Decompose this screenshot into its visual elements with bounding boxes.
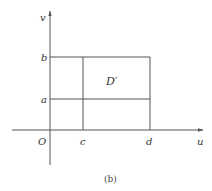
tick-label-b: b [41,52,47,63]
coordinate-diagram: v u O b a c d D′ (b) [0,0,212,191]
region-label: D′ [105,75,118,88]
figure-caption: (b) [104,174,117,184]
x-axis-label: u [197,136,203,147]
y-axis-label: v [40,12,46,23]
tick-label-c: c [80,136,86,147]
tick-label-a: a [41,94,47,105]
tick-label-d: d [146,136,152,147]
origin-label: O [38,136,46,147]
